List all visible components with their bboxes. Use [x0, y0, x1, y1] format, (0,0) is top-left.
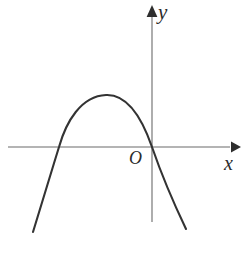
origin-label: O [129, 149, 142, 167]
y-axis-label: y [158, 2, 167, 23]
coordinate-plane-svg [0, 0, 249, 254]
y-axis-arrow-icon [147, 5, 158, 17]
x-axis-label: x [224, 153, 233, 173]
parabola-curve [33, 95, 186, 232]
x-axis-arrow-icon [231, 142, 241, 153]
parabola-figure: y x O [0, 0, 249, 254]
